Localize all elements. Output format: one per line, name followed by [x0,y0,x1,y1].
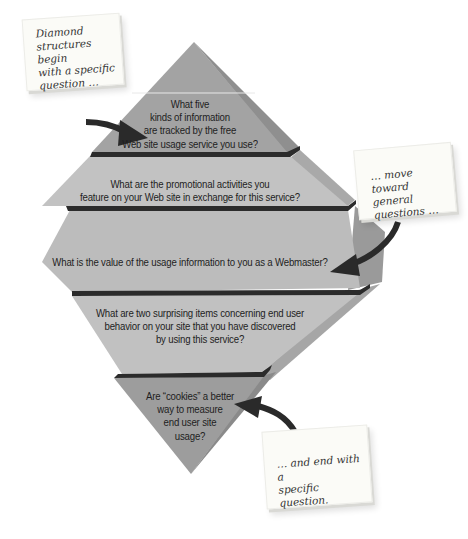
question-line: usage? [138,430,241,443]
tier-3-face [42,210,360,292]
question-line: by using this service? [80,333,321,346]
question-line: behavior on your site that you have disc… [80,320,321,333]
question-line: Are “cookies” a better [138,390,241,403]
question-line: kinds of information [104,111,276,124]
question-line: What are the promotional activities you [61,178,319,191]
question-line: end user site [138,416,241,429]
note-middle-text: … move toward general questions … [370,163,456,222]
arrow-end [258,406,295,432]
question-line: What five [104,98,276,111]
tier-1-question: What five kinds of information are track… [104,98,276,151]
question-line: way to measure [138,403,241,416]
note-end: … and end with a specific question. [261,424,372,509]
question-line: feature on your Web site in exchange for… [61,191,319,204]
diamond-diagram: What five kinds of information are track… [0,0,468,539]
question-line: What are two surprising items concerning… [80,307,321,320]
note-begin: Diamond structures begin with a specific… [22,13,125,92]
question-line: Web site usage service you use? [104,138,276,151]
tier-5-question: Are “cookies” a better way to measure en… [138,390,241,443]
tier-2-question: What are the promotional activities you … [61,178,319,204]
question-line: are tracked by the free [104,124,276,137]
note-end-text: … and end with a specific question. [276,451,371,509]
note-middle: … move toward general questions … [353,142,457,220]
question-line: What is the value of the usage informati… [44,256,336,269]
note-begin-text: Diamond structures begin with a specific… [35,22,123,93]
tier-3-question: What is the value of the usage informati… [44,256,336,269]
tier-4-question: What are two surprising items concerning… [80,307,321,347]
